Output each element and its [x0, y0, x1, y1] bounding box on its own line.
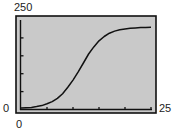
- plot-frame: [16, 16, 156, 113]
- chart-plot: [0, 0, 173, 134]
